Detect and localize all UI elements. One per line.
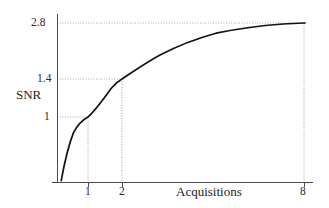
x-tick-label-8: 8: [300, 186, 306, 198]
x-tick-label-1: 1: [85, 186, 91, 198]
snr-vs-acquisitions-plot: [0, 0, 329, 208]
y-axis-title: SNR: [16, 88, 41, 101]
x-tick-label-2: 2: [119, 186, 125, 198]
x-axis-title: Acquisitions: [176, 185, 242, 198]
chart-figure: 2.8 1.4 1 1 2 8 SNR Acquisitions: [0, 0, 329, 208]
y-tick-label-1: 1: [44, 111, 50, 123]
y-tick-label-1-4: 1.4: [37, 73, 51, 85]
snr-curve: [61, 23, 305, 181]
y-tick-label-2-8: 2.8: [31, 17, 45, 29]
